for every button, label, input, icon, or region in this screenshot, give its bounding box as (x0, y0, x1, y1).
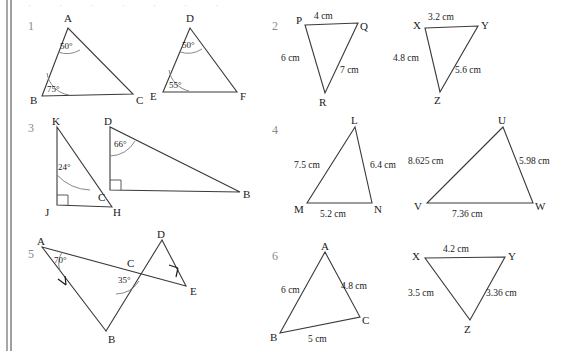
vertex-label-c: C (136, 94, 143, 106)
measure-label-xy6: 4.2 cm (443, 244, 469, 254)
question-number-1: 1 (28, 19, 34, 33)
figure-crossed-triangles: 70° 35° A B C D E (37, 228, 197, 345)
vertex-label-a: A (64, 12, 72, 24)
measure-label-xz-q2: 4.8 cm (393, 53, 419, 63)
measure-label-mn: 5.2 cm (320, 209, 346, 219)
measure-label-vw: 7.36 cm (452, 209, 483, 219)
question-number-2: 2 (272, 19, 278, 33)
measure-label-lm: 7.5 cm (294, 160, 320, 170)
question-number-5: 5 (28, 247, 34, 261)
measure-label-yz-q2: 5.6 cm (455, 65, 481, 75)
vertex-label-b5: B (108, 333, 115, 345)
vertex-label-m: M (294, 203, 304, 215)
measure-label-uw: 5.98 cm (519, 156, 550, 166)
measure-label-ab6: 6 cm (281, 285, 300, 295)
segment-bd (106, 240, 162, 331)
vertex-label-c5: C (127, 257, 134, 269)
vertex-label-f: F (240, 90, 246, 102)
vertex-label-c2: C (98, 191, 105, 203)
vertex-label-n: N (374, 203, 382, 215)
angle-label-k: 24° (58, 162, 71, 172)
figure-triangle-abc-q6: A B C 6 cm 4.8 cm 5 cm (270, 240, 369, 344)
vertex-label-r: R (319, 96, 327, 108)
segment-de (162, 240, 186, 286)
vertex-label-z6: Z (464, 323, 471, 335)
vertex-label-d2: D (104, 115, 112, 127)
figure-triangle-pqr: P Q R 4 cm 6 cm 7 cm (281, 11, 368, 108)
segment-ae (42, 247, 186, 286)
question-number-4: 4 (272, 123, 278, 137)
vertex-label-y-q2: Y (481, 19, 489, 31)
figure-triangle-abc: 50° 75° A B C (30, 12, 143, 106)
figure-triangle-uvw: U V W 8.625 cm 5.98 cm 7.36 cm (408, 114, 550, 219)
figure-triangle-xyz-q6: X Y Z 4.2 cm 3.5 cm 3.36 cm (408, 244, 517, 335)
angle-label-d2: 66° (114, 139, 127, 149)
vertex-label-a6: A (321, 240, 329, 252)
question-number-3: 3 (28, 121, 34, 135)
vertex-label-a5: A (37, 235, 45, 247)
measure-label-qr: 7 cm (340, 65, 359, 75)
figures-canvas: 1 2 3 4 5 6 50° 75° A B C 50° 55° D E F (0, 0, 569, 351)
angle-label-e: 55° (169, 80, 182, 90)
measure-label-uv: 8.625 cm (408, 156, 444, 166)
question-number-6: 6 (272, 249, 278, 263)
vertex-label-q: Q (360, 20, 368, 32)
figure-triangle-cdb: 66° D C B (98, 115, 250, 203)
measure-label-ac6: 4.8 cm (341, 281, 367, 291)
angle-label-b: 75° (47, 84, 60, 94)
vertex-label-d: D (186, 12, 194, 24)
right-angle-marker-c (110, 180, 121, 190)
measure-label-xy-q2: 3.2 cm (428, 12, 454, 22)
segment-ab (42, 247, 106, 331)
vertex-label-k: K (52, 115, 60, 127)
vertex-label-j: J (45, 206, 50, 218)
vertex-label-d5: D (157, 228, 165, 240)
vertex-label-v: V (414, 200, 422, 212)
measure-label-bc6: 5 cm (308, 334, 327, 344)
measure-label-ln: 6.4 cm (370, 160, 396, 170)
worksheet-page: · · · · · · · 1 2 3 4 5 6 50° 75° A B C … (0, 0, 569, 351)
vertex-label-x6: X (412, 250, 420, 262)
angle-label-a5: 70° (54, 255, 67, 265)
angle-label-d: 50° (182, 40, 195, 50)
vertex-label-e5: E (190, 285, 197, 297)
angle-label-c5: 35° (118, 275, 131, 285)
vertex-label-b2: B (243, 188, 250, 200)
triangle-xyz-q2-outline (425, 26, 478, 92)
vertex-label-b6: B (270, 331, 277, 343)
measure-label-pq: 4 cm (314, 11, 333, 21)
vertex-label-w: W (535, 200, 546, 212)
measure-label-pr: 6 cm (281, 53, 300, 63)
vertex-label-u: U (498, 114, 506, 126)
vertex-label-x-q2: X (413, 19, 421, 31)
vertex-label-e: E (150, 90, 157, 102)
vertex-label-h: H (113, 206, 121, 218)
vertex-label-b: B (30, 94, 37, 106)
vertex-label-p: P (296, 14, 302, 26)
figure-triangle-def: 50° 55° D E F (150, 12, 246, 102)
tick-mark-ab (58, 276, 66, 285)
vertex-label-c6: C (362, 314, 369, 326)
triangle-pqr-outline (305, 23, 358, 93)
vertex-label-y6: Y (508, 250, 516, 262)
figure-triangle-xyz-q2: X Y Z 3.2 cm 4.8 cm 5.6 cm (393, 12, 489, 106)
triangle-cdb-outline (110, 127, 240, 192)
vertex-label-l: L (351, 114, 358, 126)
measure-label-yz6: 3.36 cm (486, 288, 517, 298)
right-angle-marker-j (57, 195, 68, 205)
tick-mark-de (169, 265, 178, 277)
measure-label-xz6: 3.5 cm (408, 288, 434, 298)
vertex-label-z-q2: Z (434, 94, 441, 106)
angle-arc-k (57, 175, 90, 190)
figure-triangle-lmn: L M N 7.5 cm 6.4 cm 5.2 cm (294, 114, 396, 219)
angle-label-a: 50° (60, 41, 73, 51)
